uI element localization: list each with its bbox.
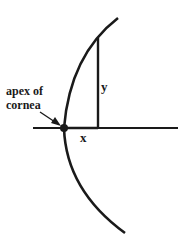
apex-label-line1: apex of — [6, 84, 43, 98]
cornea-diagram — [0, 0, 188, 250]
x-label: x — [80, 131, 87, 144]
y-label: y — [101, 80, 108, 93]
apex-label-line2: cornea — [6, 98, 43, 112]
apex-of-cornea-label: apex of cornea — [6, 84, 43, 112]
apex-point — [60, 124, 68, 132]
cornea-curve — [64, 18, 125, 233]
apex-arrow-head — [51, 117, 61, 126]
